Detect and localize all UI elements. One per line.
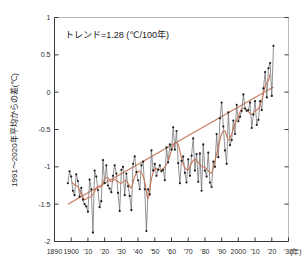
data-point	[190, 155, 192, 157]
data-point	[97, 189, 99, 191]
x-tick-label: '20	[100, 248, 109, 255]
data-point	[237, 120, 239, 122]
data-point	[266, 96, 268, 98]
data-point	[170, 149, 172, 151]
data-point	[164, 179, 166, 181]
data-point	[267, 67, 269, 69]
data-point	[271, 95, 273, 97]
data-point	[249, 102, 251, 104]
data-point	[124, 194, 126, 196]
data-point	[169, 143, 171, 145]
data-point	[144, 188, 146, 190]
data-point	[142, 161, 144, 163]
data-point	[110, 191, 112, 193]
y-tick-label: 1	[47, 14, 51, 21]
data-point	[115, 172, 117, 174]
data-point	[135, 171, 137, 173]
data-point	[236, 104, 238, 106]
data-point	[182, 155, 184, 157]
data-point	[239, 116, 241, 118]
data-point	[107, 184, 109, 186]
x-tick-label: 1890	[47, 248, 63, 255]
data-point	[214, 166, 216, 168]
data-point	[120, 169, 122, 171]
data-point	[80, 187, 82, 189]
y-tick-label: -1	[44, 163, 50, 170]
data-point	[242, 93, 244, 95]
data-point	[259, 100, 261, 102]
data-point	[92, 231, 94, 233]
data-point	[130, 209, 132, 211]
data-point	[132, 163, 134, 165]
data-point	[78, 196, 80, 198]
x-tick-label: '80	[200, 248, 209, 255]
data-point	[99, 206, 101, 208]
data-point	[174, 149, 176, 151]
data-point	[185, 181, 187, 183]
data-point	[83, 203, 85, 205]
data-point	[209, 181, 211, 183]
data-point	[125, 172, 127, 174]
data-point	[147, 188, 149, 190]
data-point	[75, 173, 77, 175]
data-point	[204, 169, 206, 171]
data-point	[68, 170, 70, 172]
data-point	[257, 119, 259, 121]
data-point	[89, 178, 91, 180]
x-tick-label: 2000	[231, 248, 247, 255]
chart-canvas: 1991～2020年平均からの差(℃) 10.50-0.5-1-1.5-2 18…	[0, 0, 306, 274]
trend-annotation: トレンド=1.28 (℃/100年)	[65, 29, 169, 40]
x-tick-label: 1900	[63, 248, 79, 255]
data-point	[177, 162, 179, 164]
data-point	[122, 166, 124, 168]
y-tick-label: 0	[47, 89, 51, 96]
data-point	[256, 124, 258, 126]
data-point	[189, 175, 191, 177]
x-tick-label: '50	[150, 248, 159, 255]
x-tick-label: '60	[167, 248, 176, 255]
data-point	[219, 117, 221, 119]
data-point	[167, 161, 169, 163]
data-point	[94, 169, 96, 171]
x-tick-label: '20	[267, 248, 276, 255]
data-point	[85, 205, 87, 207]
data-point	[216, 133, 218, 135]
data-point	[184, 172, 186, 174]
data-point	[114, 164, 116, 166]
data-point	[105, 164, 107, 166]
y-tick-label: -2	[44, 238, 50, 245]
data-point	[202, 143, 204, 145]
data-point	[165, 146, 167, 148]
data-point	[127, 185, 129, 187]
data-point	[251, 127, 253, 129]
data-point	[247, 109, 249, 111]
data-point	[73, 194, 75, 196]
data-point	[129, 195, 131, 197]
data-point	[150, 149, 152, 151]
y-tick-label: 0.5	[41, 51, 51, 58]
data-point	[134, 155, 136, 157]
data-point	[102, 159, 104, 161]
data-point	[119, 210, 121, 212]
data-point	[199, 152, 201, 154]
data-point	[221, 102, 223, 104]
data-point	[195, 153, 197, 155]
data-point	[207, 152, 209, 154]
data-point	[197, 181, 199, 183]
data-point	[160, 170, 162, 172]
data-point	[200, 190, 202, 192]
data-point	[159, 164, 161, 166]
data-point	[90, 188, 92, 190]
data-point	[206, 175, 208, 177]
data-point	[104, 182, 106, 184]
data-point	[100, 200, 102, 202]
data-point	[234, 133, 236, 135]
data-point	[70, 175, 72, 177]
data-point	[112, 175, 114, 177]
data-point	[179, 182, 181, 184]
data-point	[145, 230, 147, 232]
data-point	[162, 169, 164, 171]
data-point	[212, 161, 214, 163]
data-point	[109, 187, 111, 189]
data-point	[117, 192, 119, 194]
